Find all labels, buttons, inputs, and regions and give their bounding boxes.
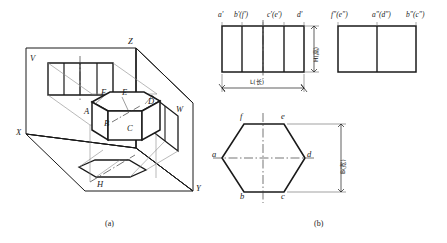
top-view-label-b: b [240,192,244,201]
front-view-label-ce-prime: c'(e') [267,11,282,19]
prism-front-face [108,111,142,140]
label-axis-y: Y [196,184,201,193]
dimension-label-width: B(宽) [340,159,346,174]
front-view-label-a-prime: a' [218,11,223,19]
side-view-label-bc-dprime: b"(c") [406,11,424,19]
label-vertex-e: E [122,88,127,97]
front-view [222,20,304,79]
top-view [213,113,314,203]
caption-a: (a) [105,220,114,228]
top-view-label-a: a [212,150,216,159]
label-plane-h: H [97,180,103,189]
side-view [338,26,416,72]
front-view-label-bf-prime: b'(f') [234,11,248,19]
label-vertex-d: D [148,97,154,106]
label-vertex-a: A [84,107,89,116]
front-view-label-d-prime: d' [297,11,302,19]
top-view-label-d: d [307,150,311,159]
label-vertex-f: F [101,88,106,97]
top-view-label-f: f [240,112,242,121]
top-view-label-e: e [281,112,285,121]
label-axis-x: X [16,128,21,137]
top-projection-on-h [79,155,146,182]
side-view-label-fe-dprime: f"(e") [331,11,348,19]
top-view-label-c: c [281,192,285,201]
dimension-label-height: H(高) [313,47,319,62]
label-plane-w: W [176,105,183,114]
label-plane-v: V [30,54,35,63]
label-vertex-c: C [127,124,133,133]
caption-b: (b) [314,220,323,228]
top-proj-hexagon [79,160,146,177]
drawing-canvas [0,0,447,243]
dimension-label-length: L(长) [250,79,264,85]
figure-sheet: V W H Z X Y A B C D E F a' b'(f') c'(e')… [0,0,447,243]
label-vertex-b: B [104,119,109,128]
side-view-label-ad-dprime: a"(d") [372,11,391,19]
label-axis-z: Z [128,37,133,46]
